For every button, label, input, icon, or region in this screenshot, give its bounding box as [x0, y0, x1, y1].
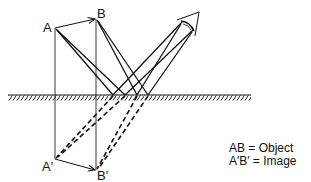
mirror [8, 95, 251, 101]
label-a-image: A′ [42, 160, 53, 173]
label-b: B [97, 7, 106, 20]
object-arrow [55, 19, 95, 28]
legend-image: A′B′ = Image [229, 155, 297, 168]
virtual-rays [56, 96, 148, 169]
legend: AB = Object A′B′ = Image [229, 142, 297, 168]
reflected-rays [113, 22, 193, 95]
incident-rays [56, 20, 148, 95]
label-a: A [43, 21, 52, 34]
label-b-image: B′ [97, 169, 108, 182]
image-arrow [55, 159, 95, 170]
